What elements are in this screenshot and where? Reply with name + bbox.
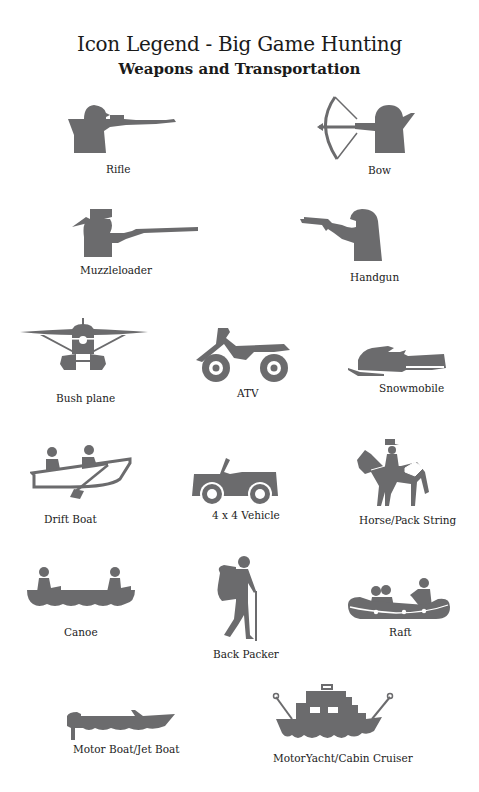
page-title: Icon Legend - Big Game Hunting <box>0 32 479 56</box>
back-packer-icon <box>214 555 264 645</box>
bow-icon <box>317 93 427 163</box>
horse-pack-string-label: Horse/Pack String <box>359 514 456 526</box>
rifle-icon <box>66 103 196 163</box>
motor-boat-jet-boat-label: Motor Boat/Jet Boat <box>73 743 180 755</box>
back-packer-label: Back Packer <box>213 648 279 660</box>
page-subtitle: Weapons and Transportation <box>0 60 479 78</box>
atv-icon <box>194 322 298 384</box>
snowmobile-icon <box>344 344 454 378</box>
rifle-label: Rifle <box>106 163 130 175</box>
motor-boat-jet-boat-icon <box>65 708 177 742</box>
canoe-icon <box>25 566 137 612</box>
raft-icon <box>346 577 452 621</box>
handgun-icon <box>298 203 388 265</box>
motor-yacht-cabin-cruiser-label: MotorYacht/Cabin Cruiser <box>273 752 413 764</box>
raft-label: Raft <box>389 626 412 638</box>
muzzleloader-icon <box>72 203 202 263</box>
horse-pack-string-icon <box>355 436 435 510</box>
bow-label: Bow <box>368 164 391 176</box>
snowmobile-label: Snowmobile <box>379 382 444 394</box>
muzzleloader-label: Muzzleloader <box>80 264 152 276</box>
canoe-label: Canoe <box>64 626 98 638</box>
bush-plane-icon <box>18 318 150 374</box>
bush-plane-label: Bush plane <box>56 392 115 404</box>
drift-boat-icon <box>30 443 134 505</box>
handgun-label: Handgun <box>350 271 399 283</box>
drift-boat-label: Drift Boat <box>44 513 97 525</box>
4x4-vehicle-label: 4 x 4 Vehicle <box>212 509 280 521</box>
motor-yacht-cabin-cruiser-icon <box>272 683 394 749</box>
4x4-vehicle-icon <box>192 456 280 506</box>
atv-label: ATV <box>237 387 259 399</box>
